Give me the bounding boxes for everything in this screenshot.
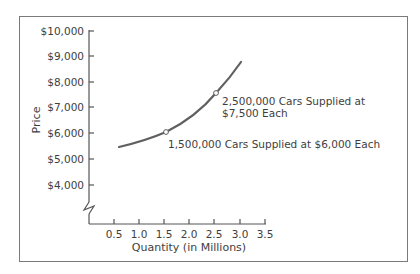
x-tick-labels: 0.5 1.0 1.5 2.0 2.5 3.0 3.5: [106, 228, 274, 240]
annotation-lower: 1,500,000 Cars Supplied at $6,000 Each: [168, 138, 380, 150]
y-axis-title: Price: [30, 106, 43, 133]
y-tick-label: $10,000: [41, 25, 84, 37]
data-point-2500000: [214, 91, 219, 96]
x-tick-label: 0.5: [106, 228, 123, 240]
x-tick-label: 2.5: [206, 228, 223, 240]
annotation-upper-line2: $7,500 Each: [222, 107, 288, 119]
x-tick-label: 1.5: [156, 228, 173, 240]
x-tick-label: 3.5: [257, 228, 274, 240]
y-tick-label: $5,000: [47, 153, 84, 165]
y-tick-label: $6,000: [47, 127, 84, 139]
supply-chart: $10,000 $9,000 $8,000 $7,000 $6,000 $5,0…: [0, 0, 420, 274]
x-tick-label: 2.0: [181, 228, 198, 240]
data-point-1500000: [164, 130, 169, 135]
x-axis-title: Quantity (in Millions): [132, 241, 246, 254]
y-tick-label: $9,000: [47, 50, 84, 62]
annotation-upper-line1: 2,500,000 Cars Supplied at: [222, 95, 365, 107]
x-axis: [89, 219, 266, 224]
x-tick-label: 1.0: [131, 228, 148, 240]
y-tick-label: $7,000: [47, 101, 84, 113]
y-tick-label: $4,000: [47, 179, 84, 191]
y-tick-labels: $10,000 $9,000 $8,000 $7,000 $6,000 $5,0…: [41, 25, 84, 191]
y-tick-label: $8,000: [47, 76, 84, 88]
y-axis: [84, 30, 94, 224]
x-tick-label: 3.0: [232, 228, 249, 240]
